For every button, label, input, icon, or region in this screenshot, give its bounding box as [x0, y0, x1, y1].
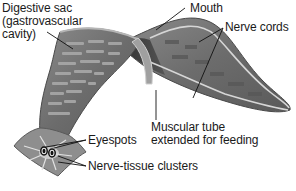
- label-muscular-tube: Muscular tube extended for feeding: [151, 121, 258, 147]
- label-mouth: Mouth: [190, 2, 223, 15]
- label-eyespots: Eyespots: [88, 134, 137, 147]
- label-nerve-tissue-clusters: Nerve-tissue clusters: [88, 160, 198, 173]
- label-digestive-sac: Digestive sac (gastrovascular cavity): [2, 2, 83, 41]
- label-nerve-cords: Nerve cords: [225, 21, 289, 34]
